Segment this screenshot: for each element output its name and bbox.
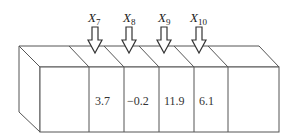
array-diagram: X7 X8 X9 X10 3.7 −0.2 11.9 6.1 — [0, 0, 292, 140]
cell-value: −0.2 — [127, 94, 149, 108]
cell-value: 3.7 — [95, 94, 110, 108]
cell-value: 6.1 — [199, 94, 214, 108]
index-label-x10: X10 — [189, 10, 207, 27]
index-label-x8: X8 — [122, 10, 136, 27]
array-diagram-svg: X7 X8 X9 X10 3.7 −0.2 11.9 6.1 — [0, 0, 292, 140]
index-label-x9: X9 — [157, 10, 171, 27]
index-label-x7: X7 — [87, 10, 101, 27]
cell-value: 11.9 — [164, 94, 185, 108]
